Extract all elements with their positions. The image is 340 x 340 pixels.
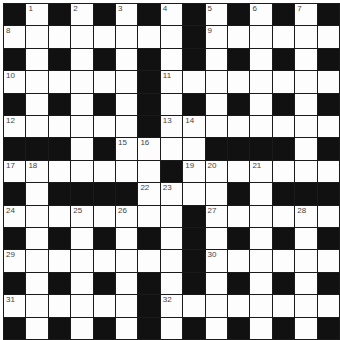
crossword-cell[interactable]	[206, 49, 227, 70]
crossword-cell[interactable]	[250, 26, 271, 47]
crossword-cell[interactable]	[318, 206, 339, 227]
crossword-cell[interactable]	[183, 71, 204, 92]
crossword-cell[interactable]	[26, 183, 47, 204]
crossword-cell[interactable]	[138, 206, 159, 227]
crossword-cell[interactable]	[295, 161, 316, 182]
crossword-cell[interactable]	[94, 71, 115, 92]
crossword-cell[interactable]	[138, 161, 159, 182]
crossword-cell[interactable]	[295, 318, 316, 339]
crossword-cell[interactable]: 2	[71, 4, 92, 25]
crossword-cell[interactable]: 18	[26, 161, 47, 182]
crossword-cell[interactable]	[71, 116, 92, 137]
crossword-cell[interactable]	[250, 318, 271, 339]
crossword-cell[interactable]	[26, 318, 47, 339]
crossword-cell[interactable]	[318, 250, 339, 271]
crossword-cell[interactable]: 21	[250, 161, 271, 182]
crossword-cell[interactable]	[26, 273, 47, 294]
crossword-cell[interactable]: 3	[116, 4, 137, 25]
crossword-cell[interactable]	[116, 26, 137, 47]
crossword-cell[interactable]	[71, 228, 92, 249]
crossword-cell[interactable]	[94, 206, 115, 227]
crossword-cell[interactable]	[318, 295, 339, 316]
crossword-cell[interactable]	[295, 295, 316, 316]
crossword-cell[interactable]	[318, 26, 339, 47]
crossword-cell[interactable]	[228, 26, 249, 47]
crossword-cell[interactable]	[161, 49, 182, 70]
crossword-cell[interactable]	[295, 273, 316, 294]
crossword-cell[interactable]	[49, 161, 70, 182]
crossword-cell[interactable]	[71, 250, 92, 271]
crossword-cell[interactable]	[26, 228, 47, 249]
crossword-cell[interactable]	[71, 26, 92, 47]
crossword-cell[interactable]	[116, 71, 137, 92]
crossword-cell[interactable]	[71, 138, 92, 159]
crossword-cell[interactable]: 26	[116, 206, 137, 227]
crossword-cell[interactable]	[250, 295, 271, 316]
crossword-cell[interactable]	[26, 116, 47, 137]
crossword-cell[interactable]	[250, 183, 271, 204]
crossword-cell[interactable]: 11	[161, 71, 182, 92]
crossword-cell[interactable]	[49, 295, 70, 316]
crossword-cell[interactable]	[250, 49, 271, 70]
crossword-cell[interactable]: 16	[138, 138, 159, 159]
crossword-cell[interactable]: 1	[26, 4, 47, 25]
crossword-cell[interactable]	[94, 26, 115, 47]
crossword-cell[interactable]	[273, 71, 294, 92]
crossword-cell[interactable]	[161, 26, 182, 47]
crossword-cell[interactable]	[161, 206, 182, 227]
crossword-cell[interactable]: 12	[4, 116, 25, 137]
crossword-cell[interactable]	[49, 26, 70, 47]
crossword-cell[interactable]	[183, 183, 204, 204]
crossword-cell[interactable]	[250, 250, 271, 271]
crossword-cell[interactable]	[116, 228, 137, 249]
crossword-cell[interactable]	[273, 26, 294, 47]
crossword-cell[interactable]	[138, 250, 159, 271]
crossword-cell[interactable]: 5	[206, 4, 227, 25]
crossword-cell[interactable]: 13	[161, 116, 182, 137]
crossword-cell[interactable]: 22	[138, 183, 159, 204]
crossword-cell[interactable]	[206, 183, 227, 204]
crossword-cell[interactable]	[71, 161, 92, 182]
crossword-cell[interactable]	[295, 138, 316, 159]
crossword-cell[interactable]	[71, 295, 92, 316]
crossword-cell[interactable]	[116, 295, 137, 316]
crossword-cell[interactable]: 24	[4, 206, 25, 227]
crossword-cell[interactable]	[116, 161, 137, 182]
crossword-cell[interactable]	[116, 250, 137, 271]
crossword-cell[interactable]	[94, 295, 115, 316]
crossword-cell[interactable]	[161, 273, 182, 294]
crossword-cell[interactable]	[116, 49, 137, 70]
crossword-cell[interactable]	[206, 318, 227, 339]
crossword-cell[interactable]	[228, 161, 249, 182]
crossword-cell[interactable]	[295, 250, 316, 271]
crossword-cell[interactable]	[318, 161, 339, 182]
crossword-cell[interactable]: 4	[161, 4, 182, 25]
crossword-cell[interactable]	[250, 228, 271, 249]
crossword-cell[interactable]	[116, 94, 137, 115]
crossword-cell[interactable]: 7	[295, 4, 316, 25]
crossword-cell[interactable]	[206, 228, 227, 249]
crossword-cell[interactable]: 6	[250, 4, 271, 25]
crossword-cell[interactable]	[273, 161, 294, 182]
crossword-cell[interactable]	[206, 71, 227, 92]
crossword-cell[interactable]	[49, 71, 70, 92]
crossword-cell[interactable]	[206, 116, 227, 137]
crossword-cell[interactable]	[26, 206, 47, 227]
crossword-cell[interactable]	[161, 138, 182, 159]
crossword-cell[interactable]	[49, 250, 70, 271]
crossword-cell[interactable]	[228, 116, 249, 137]
crossword-cell[interactable]	[273, 295, 294, 316]
crossword-cell[interactable]	[26, 71, 47, 92]
crossword-cell[interactable]	[26, 49, 47, 70]
crossword-cell[interactable]	[49, 206, 70, 227]
crossword-cell[interactable]	[228, 295, 249, 316]
crossword-cell[interactable]	[26, 94, 47, 115]
crossword-cell[interactable]	[26, 295, 47, 316]
crossword-cell[interactable]: 19	[183, 161, 204, 182]
crossword-cell[interactable]	[273, 250, 294, 271]
crossword-cell[interactable]	[250, 116, 271, 137]
crossword-cell[interactable]: 32	[161, 295, 182, 316]
crossword-cell[interactable]	[71, 71, 92, 92]
crossword-cell[interactable]	[94, 161, 115, 182]
crossword-cell[interactable]	[26, 26, 47, 47]
